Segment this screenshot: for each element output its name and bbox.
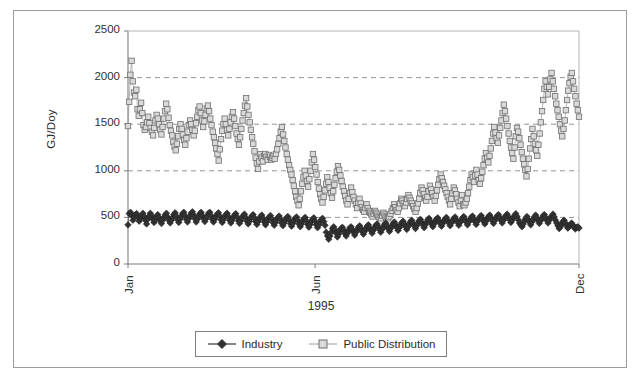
data-point-marker	[526, 156, 531, 161]
data-point-marker	[535, 153, 540, 158]
data-point-marker	[329, 195, 334, 200]
data-point-marker	[240, 118, 245, 123]
chart-area: GJ/Doy 05001000150020002500 JanJunDec 19…	[14, 11, 628, 369]
data-point-marker	[338, 173, 343, 178]
y-tick-label: 0	[74, 256, 120, 268]
data-point-marker	[520, 156, 525, 161]
figure-outer-frame: GJ/Doy 05001000150020002500 JanJunDec 19…	[13, 10, 627, 368]
data-point-marker	[132, 94, 137, 99]
data-point-marker	[211, 135, 216, 140]
data-point-marker	[477, 181, 482, 186]
data-point-marker	[555, 108, 560, 113]
data-point-marker	[251, 141, 256, 146]
data-point-marker	[336, 167, 341, 172]
data-point-marker	[563, 108, 568, 113]
data-point-marker	[495, 140, 500, 145]
data-point-marker	[276, 141, 281, 146]
data-point-marker	[464, 196, 469, 201]
data-point-marker	[237, 135, 242, 140]
y-tick-label: 1500	[74, 116, 120, 128]
data-point-marker	[549, 70, 554, 75]
data-point-marker	[566, 88, 571, 93]
data-point-marker	[530, 126, 535, 131]
data-point-marker	[216, 158, 221, 163]
data-point-marker	[205, 103, 210, 108]
data-point-marker	[545, 92, 550, 97]
y-tick-label: 1000	[74, 163, 120, 175]
legend-entry[interactable]: Public Distribution	[308, 338, 435, 350]
data-point-marker	[569, 70, 574, 75]
data-point-marker	[184, 135, 189, 140]
data-point-marker	[197, 104, 202, 109]
data-point-marker	[480, 169, 485, 174]
data-point-marker	[321, 194, 326, 199]
data-point-marker	[165, 107, 170, 112]
data-point-marker	[226, 133, 231, 138]
data-point-marker	[517, 135, 522, 140]
data-point-marker	[504, 116, 509, 121]
chart-legend: IndustryPublic Distribution	[195, 331, 447, 357]
data-point-marker	[311, 157, 316, 162]
data-point-marker	[307, 176, 312, 181]
data-point-marker	[252, 149, 257, 154]
data-point-marker	[314, 172, 319, 177]
data-point-marker	[284, 151, 289, 156]
data-point-marker	[280, 132, 285, 137]
data-point-marker	[247, 120, 252, 125]
data-point-marker	[519, 149, 524, 154]
data-point-marker	[572, 86, 577, 91]
data-point-marker	[575, 108, 580, 113]
data-point-marker	[433, 193, 438, 198]
data-point-marker	[525, 166, 530, 171]
data-point-marker	[282, 138, 287, 143]
data-point-marker	[488, 146, 493, 151]
data-point-marker	[296, 203, 301, 208]
data-point-marker	[320, 200, 325, 205]
data-point-marker	[498, 125, 503, 130]
data-point-marker	[332, 182, 337, 187]
data-point-marker	[289, 172, 294, 177]
data-point-marker	[218, 136, 223, 141]
series-industry	[125, 209, 583, 243]
data-point-marker	[126, 99, 131, 104]
data-point-marker	[506, 131, 511, 136]
y-tick-label: 2000	[74, 70, 120, 82]
data-point-marker	[505, 123, 510, 128]
data-point-marker	[243, 95, 248, 100]
data-point-marker	[573, 94, 578, 99]
legend-entry[interactable]: Industry	[207, 338, 283, 350]
data-point-marker	[556, 114, 561, 119]
data-point-marker	[552, 94, 557, 99]
data-point-marker	[298, 189, 303, 194]
legend-label: Industry	[242, 338, 283, 350]
data-point-marker	[248, 127, 253, 132]
data-point-marker	[173, 148, 178, 153]
x-tick-label: Dec	[574, 274, 586, 294]
data-point-marker	[434, 188, 439, 193]
data-point-marker	[274, 147, 279, 152]
data-point-marker	[245, 104, 250, 109]
data-point-marker	[313, 164, 318, 169]
data-point-marker	[138, 100, 143, 105]
x-tick-label: Jan	[123, 275, 135, 294]
data-point-marker	[167, 122, 172, 127]
data-point-marker	[174, 141, 179, 146]
data-point-marker	[159, 132, 164, 137]
data-point-marker	[239, 126, 244, 131]
data-point-marker	[193, 121, 198, 126]
data-point-marker	[509, 150, 514, 155]
x-axis-title: 1995	[14, 299, 628, 313]
data-point-marker	[576, 114, 581, 119]
data-point-marker	[465, 190, 470, 195]
data-point-marker	[125, 222, 132, 229]
data-point-marker	[233, 123, 238, 128]
data-point-marker	[515, 129, 520, 134]
filled-diamond-icon	[207, 338, 237, 350]
chart-plot-svg	[14, 11, 628, 369]
data-point-marker	[345, 202, 350, 207]
data-point-marker	[541, 97, 546, 102]
data-point-marker	[501, 102, 506, 107]
data-point-marker	[536, 142, 541, 147]
data-point-marker	[125, 123, 130, 128]
data-point-marker	[128, 72, 133, 77]
